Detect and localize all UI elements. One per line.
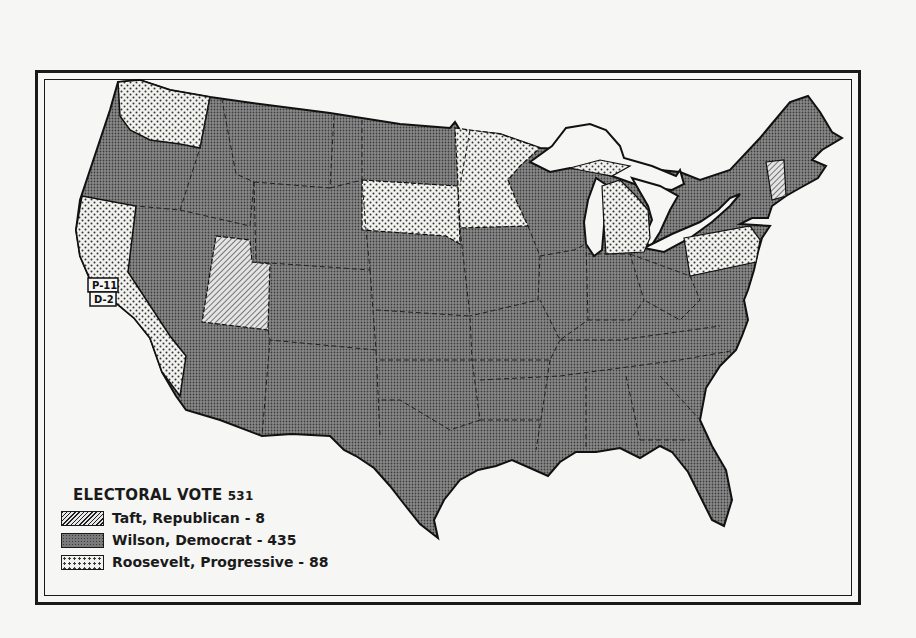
legend-item-taft: Taft, Republican - 8 [73, 507, 328, 529]
legend-total: 531 [228, 489, 254, 503]
legend-title: ELECTORAL VOTE 531 [73, 486, 328, 504]
legend-label: Wilson, Democrat - 435 [112, 532, 297, 548]
label-d2: D-2 [94, 294, 114, 305]
roosevelt-swatch-icon [61, 555, 104, 570]
legend-item-roosevelt: Roosevelt, Progressive - 88 [73, 551, 328, 573]
legend: ELECTORAL VOTE 531 Taft, Republican - 8 … [73, 486, 328, 573]
legend-item-wilson: Wilson, Democrat - 435 [73, 529, 328, 551]
wilson-swatch-icon [61, 533, 104, 548]
label-p11: P-11 [92, 280, 117, 291]
california-split-label: P-11 D-2 [88, 278, 118, 306]
legend-label: Roosevelt, Progressive - 88 [112, 554, 328, 570]
legend-label: Taft, Republican - 8 [112, 510, 265, 526]
legend-title-text: ELECTORAL VOTE [73, 486, 222, 504]
taft-swatch-icon [61, 511, 104, 526]
